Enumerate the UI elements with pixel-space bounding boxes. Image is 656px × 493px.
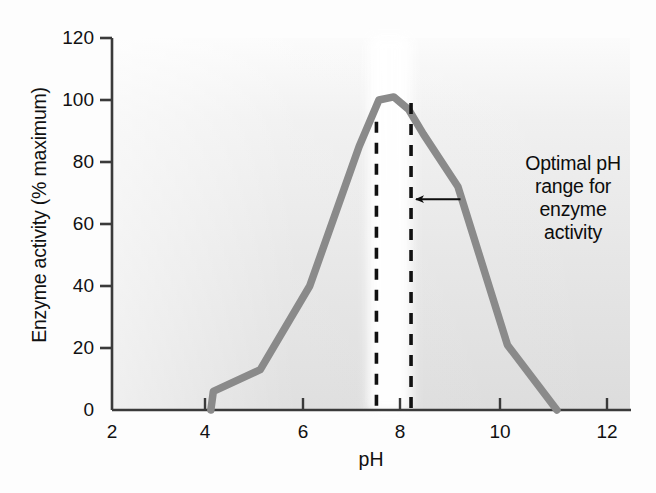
chart-plot-area bbox=[0, 0, 656, 493]
x-tick-label-4: 4 bbox=[200, 421, 211, 443]
annotation-line-4: activity bbox=[497, 221, 649, 244]
annotation-line-3: enzyme bbox=[497, 198, 649, 221]
annotation-line-1: Optimal pH bbox=[497, 152, 649, 175]
x-tick-label-2: 2 bbox=[107, 421, 118, 443]
y-axis-ticks bbox=[100, 38, 112, 348]
optimal-range-annotation: Optimal pH range for enzyme activity bbox=[497, 152, 649, 244]
x-tick-label-8: 8 bbox=[395, 421, 406, 443]
x-tick-label-10: 10 bbox=[489, 421, 510, 443]
enzyme-activity-ph-figure: 120 100 80 60 40 20 0 2 4 6 8 10 12 Enzy… bbox=[0, 0, 656, 493]
annotation-line-2: range for bbox=[497, 175, 649, 198]
x-tick-label-6: 6 bbox=[298, 421, 309, 443]
y-axis-title: Enzyme activity (% maximum) bbox=[22, 5, 56, 425]
x-tick-label-12: 12 bbox=[596, 421, 617, 443]
x-axis-title: pH bbox=[112, 448, 630, 471]
